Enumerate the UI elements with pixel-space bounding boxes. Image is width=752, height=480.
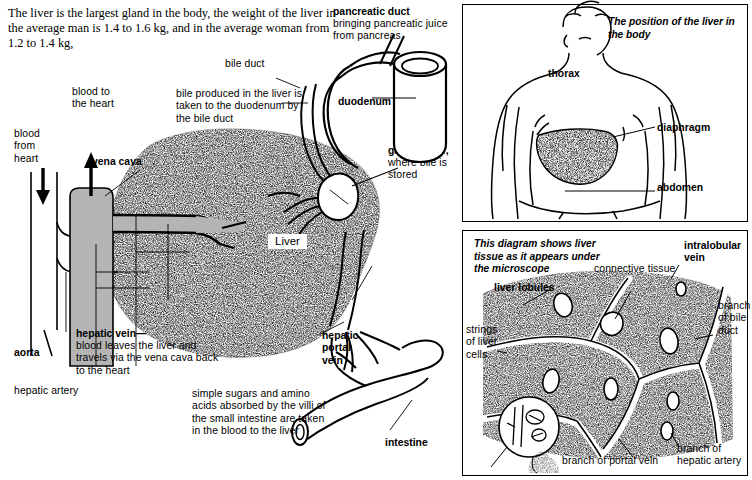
label-thorax: thorax	[548, 68, 580, 80]
label-bile-duct: bile duct	[225, 58, 265, 70]
diagram-page: The liver is the largest gland in the bo…	[0, 0, 752, 480]
liver-organ-label: Liver	[268, 234, 307, 249]
label-villi-note: simple sugars and amino acids absorbed b…	[192, 388, 332, 438]
label-intestine: intestine	[385, 437, 428, 449]
label-liver-lobules: liver lobules	[494, 282, 555, 294]
label-pancreatic-duct-title: pancreatic duct	[333, 6, 410, 18]
label-blood-from-heart: blood from heart	[14, 128, 74, 165]
label-branch-of-bile-duct: branch of bile duct	[718, 300, 752, 337]
label-vena-cava: vena cava	[92, 156, 142, 168]
label-hepatic-artery: hepatic artery	[14, 385, 78, 397]
label-intralobular-vein: intralobular vein	[684, 240, 750, 265]
label-connective-tissue: connective tissue	[594, 263, 675, 275]
label-branch-of-portal-vein: branch of portal vein	[562, 455, 658, 467]
duodenum-organ	[320, 28, 470, 188]
label-bile-note: bile produced in the liver is taken to t…	[176, 88, 316, 125]
label-strings-of-liver-cells: strings of liver cells	[466, 324, 514, 361]
label-branch-of-hepatic-artery: branch of hepatic artery	[677, 443, 752, 468]
label-blood-to-heart: blood to the heart	[72, 86, 146, 111]
label-diaphragm: diaphragm	[657, 122, 710, 134]
label-hepatic-vein-body: blood leaves the liver and travels via t…	[76, 340, 226, 377]
label-hepatic-vein-title: hepatic vein—	[76, 328, 146, 340]
label-hepatic-portal-vein: hepatic portal vein	[322, 330, 368, 367]
label-abdomen: abdomen	[657, 182, 703, 194]
blood-from-heart-arrow	[36, 168, 50, 205]
micro-panel-caption: This diagram shows liver tissue as it ap…	[474, 238, 610, 276]
label-aorta: aorta	[14, 347, 39, 359]
body-panel-caption: The position of the liver in the body	[608, 16, 736, 41]
